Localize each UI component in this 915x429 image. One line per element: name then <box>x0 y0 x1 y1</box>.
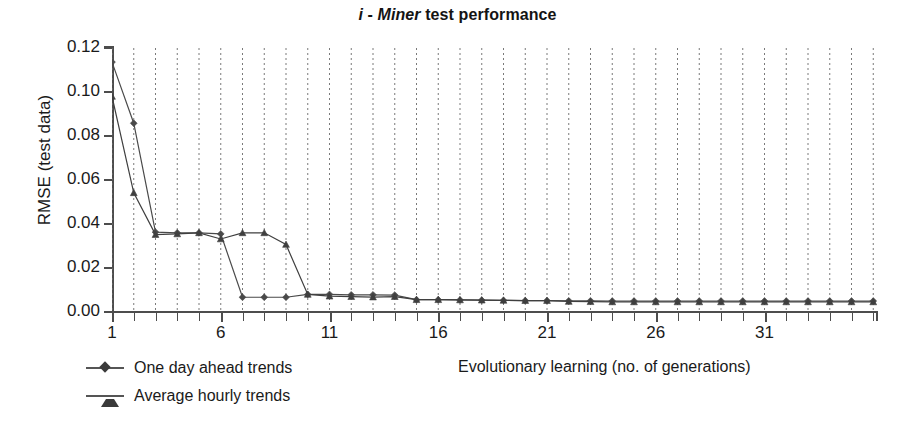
x-tick-12 <box>351 313 352 321</box>
data-point-one-day-1 <box>112 59 115 66</box>
data-point-one-day-7 <box>239 294 246 301</box>
y-tick-label-1: 0.10 <box>42 81 100 101</box>
x-tick-5 <box>199 313 200 321</box>
x-tick-27 <box>678 313 679 321</box>
x-tick-15 <box>417 313 418 321</box>
x-tick-26 <box>656 313 658 322</box>
x-tick-18 <box>482 313 483 321</box>
x-tick-7 <box>243 313 244 321</box>
x-tick-36 <box>873 313 874 321</box>
legend: One day ahead trends Average hourly tren… <box>86 356 292 412</box>
x-tick-16 <box>438 313 440 322</box>
x-tick-label-0: 1 <box>92 323 132 343</box>
y-tick-label-3: 0.06 <box>42 169 100 189</box>
x-tick-2 <box>134 313 135 321</box>
y-tick-label-6: 0.00 <box>42 301 100 321</box>
x-tick-1 <box>112 313 114 322</box>
x-axis-right-cap <box>876 311 878 321</box>
y-tick-label-2: 0.08 <box>42 125 100 145</box>
x-tick-4 <box>177 313 178 321</box>
x-tick-14 <box>395 313 396 321</box>
x-tick-8 <box>264 313 265 321</box>
plot-svg <box>112 48 877 312</box>
legend-label-0: One day ahead trends <box>134 359 292 377</box>
x-tick-20 <box>525 313 526 321</box>
x-tick-17 <box>460 313 461 321</box>
plot-area <box>112 48 877 312</box>
title-rest: test performance <box>421 6 557 23</box>
legend-label-1: Average hourly trends <box>134 387 290 405</box>
x-tick-24 <box>612 313 613 321</box>
x-tick-label-2: 11 <box>310 323 350 343</box>
x-tick-label-6: 31 <box>745 323 785 343</box>
data-point-avg-hourly-2 <box>130 189 137 195</box>
x-tick-28 <box>699 313 700 321</box>
y-tick-label-5: 0.02 <box>42 257 100 277</box>
x-tick-13 <box>373 313 374 321</box>
x-tick-label-4: 21 <box>527 323 567 343</box>
title-miner: Miner <box>377 6 420 23</box>
x-tick-label-3: 16 <box>418 323 458 343</box>
title-dash: - <box>363 6 378 23</box>
x-tick-9 <box>286 313 287 321</box>
data-point-one-day-8 <box>261 294 268 301</box>
x-tick-23 <box>591 313 592 321</box>
series-line-one-day-ahead-trends <box>112 62 873 301</box>
legend-item-one-day-ahead-trends: One day ahead trends <box>86 356 292 380</box>
x-tick-label-5: 26 <box>636 323 676 343</box>
data-point-avg-hourly-9 <box>283 241 290 247</box>
x-tick-11 <box>330 313 332 322</box>
x-tick-35 <box>852 313 853 321</box>
y-tick-label-4: 0.04 <box>42 213 100 233</box>
x-tick-3 <box>156 313 157 321</box>
x-tick-19 <box>504 313 505 321</box>
x-tick-33 <box>808 313 809 321</box>
x-tick-label-1: 6 <box>201 323 241 343</box>
legend-item-average-hourly-trends: Average hourly trends <box>86 384 292 408</box>
legend-key-diamond-icon <box>86 361 124 375</box>
page-title: i - Miner test performance <box>0 6 915 24</box>
x-tick-29 <box>721 313 722 321</box>
data-point-avg-hourly-1 <box>112 93 115 99</box>
legend-key-triangle-icon <box>86 389 124 403</box>
x-tick-31 <box>765 313 767 322</box>
x-tick-6 <box>221 313 223 322</box>
data-point-one-day-9 <box>283 294 290 301</box>
y-tick-label-0: 0.12 <box>42 37 100 57</box>
x-tick-32 <box>786 313 787 321</box>
series-line-average-hourly-trends <box>112 96 873 301</box>
x-tick-22 <box>569 313 570 321</box>
x-tick-10 <box>308 313 309 321</box>
x-tick-34 <box>830 313 831 321</box>
x-tick-25 <box>634 313 635 321</box>
x-tick-21 <box>547 313 549 322</box>
x-tick-30 <box>743 313 744 321</box>
data-point-one-day-2 <box>130 120 137 127</box>
x-axis-title: Evolutionary learning (no. of generation… <box>458 358 751 376</box>
chart-root: i - Miner test performance RMSE (test da… <box>0 0 915 429</box>
